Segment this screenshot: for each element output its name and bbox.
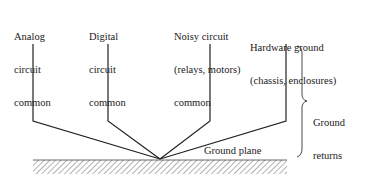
- label-hardware: Hardware ground (chassis, enclosures): [250, 20, 336, 97]
- label-ground-plane: Ground plane: [204, 145, 261, 156]
- label-noisy: Noisy circuit (relays, motors) common: [174, 9, 240, 119]
- ground-plane: [33, 160, 287, 174]
- label-analog: Analog circuit common: [14, 9, 51, 119]
- label-digital: Digital circuit common: [89, 9, 126, 119]
- label-ground-returns: Ground returns: [313, 95, 345, 172]
